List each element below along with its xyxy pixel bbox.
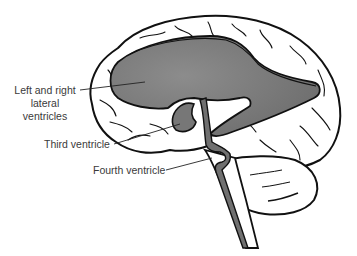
label-fourth-ventricle: Fourth ventricle xyxy=(93,164,165,177)
label-lateral-line3: ventricles xyxy=(10,110,80,123)
brain-ventricles-diagram xyxy=(0,0,357,256)
label-third-ventricle: Third ventricle xyxy=(44,138,110,151)
label-lateral-line1: Left and right xyxy=(10,84,80,97)
label-lateral-line2: lateral xyxy=(10,97,80,110)
label-lateral-ventricles: Left and right lateral ventricles xyxy=(10,84,80,123)
leader-fourth xyxy=(166,158,212,170)
